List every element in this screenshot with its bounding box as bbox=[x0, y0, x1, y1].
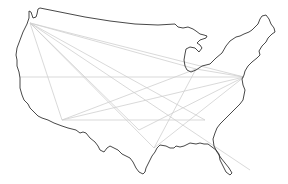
route-chicago-houston bbox=[154, 69, 196, 148]
route-chicago-new-york bbox=[196, 69, 244, 77]
route-seattle-chicago bbox=[30, 23, 196, 69]
route-seattle-new-york bbox=[30, 23, 244, 77]
route-seattle-atlanta bbox=[30, 23, 205, 120]
route-seattle-houston bbox=[30, 23, 154, 148]
us-outline bbox=[16, 8, 275, 175]
us-route-map bbox=[0, 0, 288, 184]
route-seattle-los-angeles bbox=[30, 23, 62, 120]
flight-routes bbox=[20, 23, 250, 170]
route-seattle-miami bbox=[30, 23, 250, 170]
